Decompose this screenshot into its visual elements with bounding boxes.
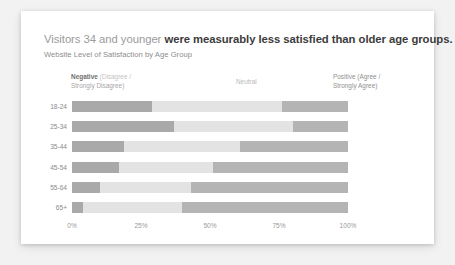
chart-x-axis: 0%25%50%75%100% [72,221,348,233]
bar-segment-neutral [100,182,191,193]
bar-row-category-label: 18-24 [27,101,67,112]
legend-negative: Negative (Disagree / Strongly Disagree) [71,73,131,90]
legend-neutral: Neutral [236,78,257,87]
bar-row-category-label: 55-64 [27,182,67,193]
bar-row: 35-44 [72,141,348,152]
bar-segment-neutral [174,121,293,132]
x-axis-tick-label: 100% [340,221,357,231]
x-axis-tick-label: 50% [203,221,216,231]
bar-segment-positive [213,162,348,173]
bar-row: 45-54 [72,162,348,173]
bar-row: 25-34 [72,121,348,132]
chart-card-inner: Visitors 34 and younger were measurably … [21,11,434,244]
bar-segment-neutral [83,202,182,213]
bar-segment-neutral [119,162,213,173]
legend-negative-detail: (Disagree / [98,73,131,80]
bar-row-category-label: 45-54 [27,162,67,173]
bar-segment-negative [72,141,124,152]
x-axis-tick-label: 0% [67,221,77,231]
bar-segment-negative [72,162,119,173]
bar-segment-neutral [124,141,240,152]
legend-negative-line1: Negative (Disagree / [71,73,131,82]
chart-title: Visitors 34 and younger were measurably … [44,33,424,46]
chart-subtitle: Website Level of Satisfaction by Age Gro… [44,50,192,60]
bar-row-category-label: 35-44 [27,141,67,152]
bar-segment-positive [240,141,348,152]
bar-row: 18-24 [72,101,348,112]
bar-segment-negative [72,182,100,193]
x-axis-tick-label: 75% [272,221,285,231]
legend-negative-label: Negative [71,73,98,80]
legend-negative-line2: Strongly Disagree) [71,82,131,91]
bar-segment-negative [72,101,152,112]
legend-positive: Positive (Agree / Strongly Agree) [333,73,380,90]
legend-positive-line1: Positive (Agree / [333,73,380,82]
bar-segment-positive [182,202,348,213]
bar-segment-positive [293,121,348,132]
chart-plot-area: 18-2425-3435-4445-5455-6465+ [72,101,348,219]
chart-title-emphasis: were measurably less satisfied than olde… [164,33,452,45]
bar-row: 55-64 [72,182,348,193]
bar-row: 65+ [72,202,348,213]
bar-segment-neutral [152,101,282,112]
bar-segment-positive [191,182,348,193]
chart-card: Visitors 34 and younger were measurably … [21,11,434,244]
bar-segment-negative [72,121,174,132]
bar-segment-positive [282,101,348,112]
chart-title-lead: Visitors 34 and younger [44,33,161,45]
bar-row-category-label: 25-34 [27,121,67,132]
x-axis-tick-label: 25% [134,221,147,231]
bar-segment-negative [72,202,83,213]
bar-row-category-label: 65+ [27,202,67,213]
legend-positive-line2: Strongly Agree) [333,82,380,91]
